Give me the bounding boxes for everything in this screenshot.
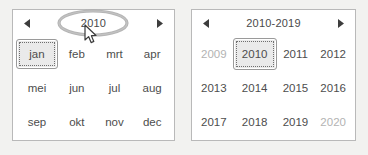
year-cell-2012[interactable]: 2012 [314,37,352,71]
month-cell-feb[interactable]: feb [58,37,96,71]
month-cell-okt[interactable]: okt [58,105,96,139]
month-picker-header: 2010 [13,10,174,37]
year-cell-2020[interactable]: 2020 [314,105,352,139]
year-cell-2016[interactable]: 2016 [314,71,352,105]
month-cell-nov[interactable]: nov [96,105,134,139]
month-picker-panel: 2010 jan feb mrt apr mei jun jul aug sep… [12,9,175,141]
previous-decade-arrow-icon[interactable] [199,16,213,32]
year-cell-2018[interactable]: 2018 [233,105,277,139]
month-cell-jun[interactable]: jun [58,71,96,105]
month-cell-mrt[interactable]: mrt [96,37,134,71]
year-cell-2013[interactable]: 2013 [195,71,233,105]
month-grid: jan feb mrt apr mei jun jul aug sep okt … [13,37,174,142]
year-cell-2009[interactable]: 2009 [195,37,233,71]
month-cell-mei[interactable]: mei [16,71,58,105]
month-cell-jul[interactable]: jul [96,71,134,105]
year-cell-2011[interactable]: 2011 [277,37,315,71]
year-picker-title[interactable]: 2010-2019 [213,18,334,29]
month-cell-aug[interactable]: aug [133,71,171,105]
next-decade-arrow-icon[interactable] [334,16,348,32]
year-grid: 2009 2010 2011 2012 2013 2014 2015 2016 … [192,37,355,142]
year-cell-2019[interactable]: 2019 [277,105,315,139]
screenshot-stage: 2010 jan feb mrt apr mei jun jul aug sep… [0,0,368,155]
month-cell-sep[interactable]: sep [16,105,58,139]
month-picker-title[interactable]: 2010 [34,18,153,29]
year-picker-panel: 2010-2019 2009 2010 2011 2012 2013 2014 … [191,9,356,141]
previous-year-arrow-icon[interactable] [20,16,34,32]
year-cell-2015[interactable]: 2015 [277,71,315,105]
year-cell-2010[interactable]: 2010 [233,38,277,70]
month-cell-apr[interactable]: apr [133,37,171,71]
year-picker-header: 2010-2019 [192,10,355,37]
year-cell-2017[interactable]: 2017 [195,105,233,139]
next-year-arrow-icon[interactable] [153,16,167,32]
year-cell-2014[interactable]: 2014 [233,71,277,105]
month-cell-jan[interactable]: jan [16,39,58,69]
month-cell-dec[interactable]: dec [133,105,171,139]
